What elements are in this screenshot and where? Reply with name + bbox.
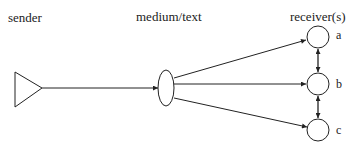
receiver-b-label: b <box>336 77 342 91</box>
receiver-c-label: c <box>336 123 341 137</box>
receiver-b-circle <box>307 73 329 95</box>
medium-ellipse <box>158 70 174 106</box>
receiver-c-circle <box>307 119 329 141</box>
medium-label: medium/text <box>136 9 202 24</box>
receiver-a-label: a <box>336 28 342 42</box>
communication-diagram: sender medium/text receiver(s) a b c <box>0 0 357 154</box>
medium-to-a-arrow <box>174 40 306 78</box>
sender-triangle <box>15 72 42 107</box>
receiver-a-circle <box>307 26 329 48</box>
medium-to-c-arrow <box>174 98 307 127</box>
receivers-label: receiver(s) <box>290 9 346 24</box>
sender-label: sender <box>8 10 43 25</box>
